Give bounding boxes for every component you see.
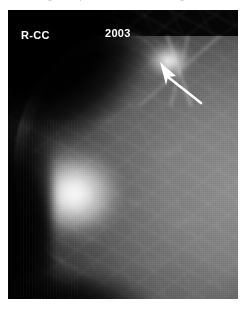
- caption-remnant: cut-off figure caption text above the im…: [0, 0, 247, 9]
- caption-remnant-text: cut-off figure caption text above the im…: [14, 0, 190, 1]
- year-label: 2003: [105, 27, 131, 39]
- lesion-pointer-arrow: [8, 10, 238, 299]
- view-label: R-CC: [21, 29, 50, 41]
- mammogram-image[interactable]: R-CC 2003: [8, 10, 238, 299]
- mammogram-canvas: R-CC 2003: [8, 10, 238, 299]
- arrow-shaft: [168, 77, 201, 103]
- page-root: cut-off figure caption text above the im…: [0, 0, 247, 310]
